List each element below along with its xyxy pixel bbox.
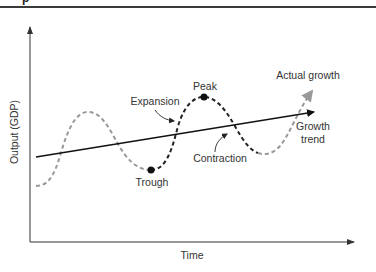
- growth-trend-label-line1: Growth: [296, 121, 330, 132]
- expansion-pointer-arrow: [155, 110, 174, 121]
- expansion-label: Expansion: [130, 96, 179, 107]
- growth-trend-label-line2: trend: [301, 134, 325, 145]
- trough-label: Trough: [136, 177, 169, 188]
- trough-dot: [148, 167, 155, 174]
- peak-label: Peak: [193, 81, 217, 92]
- contraction-label: Contraction: [193, 153, 247, 164]
- actual-growth-label: Actual growth: [276, 70, 340, 81]
- contraction-pointer-arrow: [215, 134, 227, 152]
- x-axis-label: Time: [181, 250, 204, 261]
- y-axis-label: Output (GDP): [8, 100, 20, 164]
- business-cycle-diagram: p: [0, 0, 376, 272]
- peak-dot: [201, 94, 208, 101]
- growth-trend-line: [36, 112, 314, 157]
- actual-growth-curve-left: [36, 112, 151, 186]
